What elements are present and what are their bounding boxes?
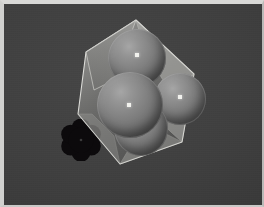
atom-center-dot-front [129, 105, 133, 109]
render-viewport: Tetrahedral sphere cluster in translucen… [0, 0, 264, 207]
scene-background [0, 0, 264, 207]
atom-center-dot-right [180, 97, 184, 101]
atom-center-dot-back-top [137, 55, 141, 59]
